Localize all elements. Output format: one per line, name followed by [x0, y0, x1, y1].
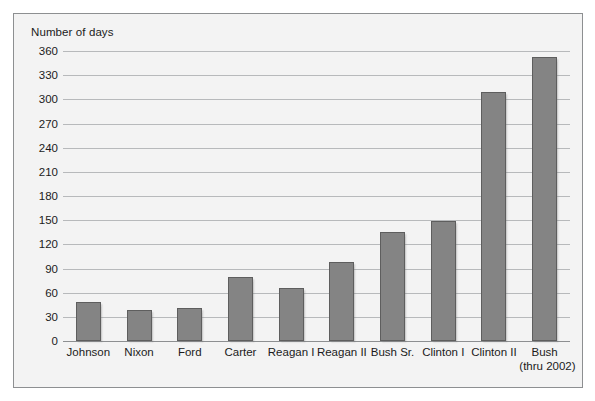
- y-tick-label: 180: [18, 190, 58, 202]
- y-tick-label: 360: [18, 45, 58, 57]
- x-tick-sublabel: (thru 2002): [519, 359, 570, 373]
- y-tick-label: 150: [18, 214, 58, 226]
- x-tick-label: Clinton I: [418, 345, 469, 359]
- y-tick-label: 270: [18, 118, 58, 130]
- bar: [380, 232, 405, 341]
- x-tick-label: Reagan I: [266, 345, 317, 359]
- bar: [481, 92, 506, 341]
- bar: [177, 308, 202, 341]
- y-tick-label: 300: [18, 93, 58, 105]
- plot-area: [63, 51, 570, 341]
- bar: [279, 288, 304, 341]
- y-tick-label: 120: [18, 238, 58, 250]
- bar: [329, 262, 354, 341]
- y-tick-label: 30: [18, 311, 58, 323]
- bar: [431, 221, 456, 341]
- bar: [532, 57, 557, 341]
- bar: [127, 310, 152, 341]
- x-tick-label: Bush Sr.: [367, 345, 418, 359]
- y-tick-label: 60: [18, 287, 58, 299]
- x-tick-label: Clinton II: [469, 345, 520, 359]
- y-tick-label: 210: [18, 166, 58, 178]
- axis-baseline: [63, 341, 570, 342]
- y-tick-label: 0: [18, 335, 58, 347]
- y-tick-label: 90: [18, 263, 58, 275]
- chart-figure: Number of days 3603303002702402101801501…: [0, 0, 595, 401]
- gridline: [63, 75, 570, 76]
- x-tick-label: Ford: [164, 345, 215, 359]
- bar: [228, 277, 253, 341]
- x-tick-label: Carter: [215, 345, 266, 359]
- y-tick-label: 240: [18, 142, 58, 154]
- x-tick-label: Bush(thru 2002): [519, 345, 570, 373]
- y-tick-label: 330: [18, 69, 58, 81]
- y-axis-title: Number of days: [31, 26, 114, 38]
- x-axis-tick-labels: JohnsonNixonFordCarterReagan IReagan IIB…: [63, 345, 570, 385]
- x-tick-label: Nixon: [114, 345, 165, 359]
- x-tick-label: Reagan II: [317, 345, 368, 359]
- y-axis-tick-labels: 3603303002702402101801501209060300: [14, 51, 58, 341]
- bar: [76, 302, 101, 341]
- x-tick-label: Johnson: [63, 345, 114, 359]
- gridline: [63, 51, 570, 52]
